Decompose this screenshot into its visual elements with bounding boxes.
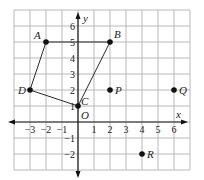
y-tick-label: 4 [70, 53, 75, 64]
point-c: C [75, 95, 89, 109]
point-label: R [146, 148, 154, 160]
x-axis-arrow-icon [181, 120, 188, 125]
x-tick-label: 1 [92, 124, 97, 135]
point-label: B [114, 28, 121, 40]
point-marker-icon [171, 87, 177, 93]
point-marker-icon [43, 39, 49, 45]
coordinate-plane-diagram: xyO −3−2−1123456654321−1−2 ABCDPQR [0, 0, 204, 180]
point-label: Q [179, 84, 187, 96]
x-tick-label: 6 [172, 124, 177, 135]
x-tick-label: 2 [108, 124, 113, 135]
y-tick-label: 6 [70, 21, 75, 32]
point-label: A [33, 29, 41, 41]
point-marker-icon [139, 151, 145, 157]
point-label: D [17, 84, 26, 96]
y-tick-label: 3 [70, 69, 75, 80]
y-tick-label: −1 [64, 133, 75, 144]
origin-label: O [81, 109, 89, 121]
x-axis-label: x [175, 108, 181, 120]
x-tick-label: 3 [124, 124, 129, 135]
y-tick-label: 2 [70, 85, 75, 96]
y-axis-arrow-icon [76, 12, 81, 19]
y-axis-down-arrow-icon [76, 171, 81, 178]
point-marker-icon [107, 39, 113, 45]
x-tick-label: 5 [156, 124, 161, 135]
x-tick-label: 4 [140, 124, 145, 135]
point-marker-icon [75, 103, 81, 109]
point-p: P [107, 84, 122, 96]
point-r: R [139, 148, 154, 160]
x-tick-label: −3 [25, 124, 36, 135]
y-axis-label: y [82, 12, 88, 24]
y-tick-label: −2 [64, 149, 75, 160]
point-marker-icon [27, 87, 33, 93]
coordinate-grid: xyO −3−2−1123456654321−1−2 ABCDPQR [0, 0, 204, 180]
point-label: C [81, 95, 89, 107]
x-tick-label: −2 [41, 124, 52, 135]
point-label: P [114, 84, 122, 96]
x-axis-left-arrow-icon [8, 120, 15, 125]
y-tick-label: 1 [70, 101, 75, 112]
point-marker-icon [107, 87, 113, 93]
